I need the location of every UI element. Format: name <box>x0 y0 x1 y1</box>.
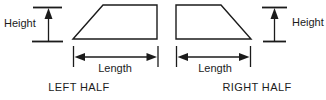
right-height-label: Height <box>292 16 324 28</box>
diagram-canvas: Height Length LEFT HALF <box>0 0 326 100</box>
right-half-trapezoid <box>176 5 251 39</box>
right-height-dimension: Height <box>262 8 324 42</box>
half-sections-diagram: Height Length LEFT HALF <box>0 0 326 100</box>
left-length-dimension: Length <box>74 46 159 74</box>
right-length-label: Length <box>198 62 232 74</box>
left-length-right-arrow-icon <box>147 53 158 61</box>
right-half-figure: Length Height RIGHT HALF <box>176 5 324 93</box>
left-half-caption: LEFT HALF <box>48 81 109 93</box>
right-height-up-arrow-icon <box>271 8 279 19</box>
right-length-dimension: Length <box>177 46 251 74</box>
right-length-right-arrow-icon <box>239 53 250 61</box>
left-height-up-arrow-icon <box>45 8 53 19</box>
right-length-left-arrow-icon <box>178 53 189 61</box>
right-half-caption: RIGHT HALF <box>222 81 291 93</box>
left-length-label: Length <box>98 62 132 74</box>
left-length-left-arrow-icon <box>75 53 86 61</box>
left-half-trapezoid <box>73 5 157 39</box>
left-half-figure: Height Length LEFT HALF <box>4 5 158 93</box>
left-height-dimension: Height <box>4 8 63 42</box>
left-height-label: Height <box>4 17 36 29</box>
